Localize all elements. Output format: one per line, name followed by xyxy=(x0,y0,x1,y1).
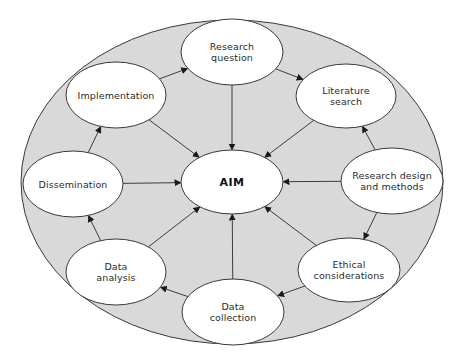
node-label-line: Dissemination xyxy=(39,179,108,190)
node-label-implementation: Implementation xyxy=(78,90,155,101)
node-label-aim: AIM xyxy=(219,177,244,188)
node-label-line: Data xyxy=(210,301,257,312)
node-label-research-design: Research designand methods xyxy=(352,170,432,192)
node-label-line: AIM xyxy=(219,177,244,188)
node-label-line: Literature xyxy=(322,85,370,96)
node-label-ethical-considerations: Ethicalconsiderations xyxy=(314,259,385,281)
node-label-line: search xyxy=(322,96,370,107)
node-label-literature-search: Literaturesearch xyxy=(322,85,370,107)
node-label-line: Research design xyxy=(352,170,432,181)
node-label-line: analysis xyxy=(96,272,135,283)
node-label-line: Research xyxy=(210,41,254,52)
node-label-data-analysis: Dataanalysis xyxy=(96,261,135,283)
node-label-line: considerations xyxy=(314,270,385,281)
node-label-research-question: Researchquestion xyxy=(210,41,254,63)
node-label-line: and methods xyxy=(352,181,432,192)
node-label-data-collection: Datacollection xyxy=(210,301,257,323)
node-label-line: Data xyxy=(96,261,135,272)
node-label-line: collection xyxy=(210,312,257,323)
node-label-line: Implementation xyxy=(78,90,155,101)
node-label-line: question xyxy=(210,52,254,63)
node-label-dissemination: Dissemination xyxy=(39,179,108,190)
node-label-line: Ethical xyxy=(314,259,385,270)
